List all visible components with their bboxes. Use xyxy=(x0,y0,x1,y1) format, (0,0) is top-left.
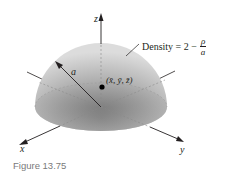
x-axis-label: x xyxy=(20,144,24,154)
z-axis-label: z xyxy=(94,14,98,24)
figure-caption: Figure 13.75 xyxy=(13,160,66,171)
y-axis-arrowhead xyxy=(176,136,184,142)
radius-label: a xyxy=(71,67,76,77)
y-axis-label: y xyxy=(180,145,184,155)
density-label: Density = 2 − ρ a xyxy=(142,36,206,57)
hemisphere-diagram xyxy=(0,0,225,176)
hemisphere-figure: z x y a Density = 2 − ρ a (x̄, ȳ, z̄) F… xyxy=(0,0,225,176)
density-denominator: a xyxy=(201,47,206,57)
y-axis xyxy=(150,127,178,139)
x-axis xyxy=(25,126,60,142)
centroid-point xyxy=(99,84,104,89)
density-numerator: ρ xyxy=(200,36,206,47)
z-axis-arrowhead xyxy=(99,13,104,21)
density-fraction: ρ a xyxy=(200,36,206,57)
density-prefix: Density = 2 − xyxy=(142,42,197,52)
centroid-label: (x̄, ȳ, z̄) xyxy=(106,76,133,85)
